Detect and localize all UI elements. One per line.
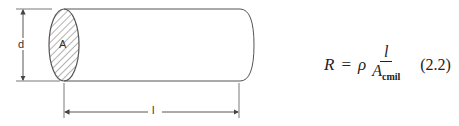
numerator: l: [380, 44, 392, 62]
diameter-label: d: [17, 38, 25, 50]
denominator-subscript: cmil: [382, 71, 400, 82]
resistance-symbol: R: [324, 55, 334, 75]
cylinder-conductor-figure: A d l: [0, 0, 270, 126]
resistance-equation: R = ρ l Acmil (2.2): [324, 44, 451, 86]
denominator: Acmil: [372, 62, 400, 86]
resistivity-symbol: ρ: [358, 55, 366, 75]
denominator-base: A: [372, 62, 382, 79]
cylinder-diagram: [0, 0, 270, 126]
fraction: l Acmil: [372, 44, 400, 86]
equation-number: (2.2): [420, 56, 451, 74]
length-label: l: [152, 104, 154, 116]
area-label: A: [59, 38, 66, 50]
equals-sign: =: [341, 55, 351, 75]
